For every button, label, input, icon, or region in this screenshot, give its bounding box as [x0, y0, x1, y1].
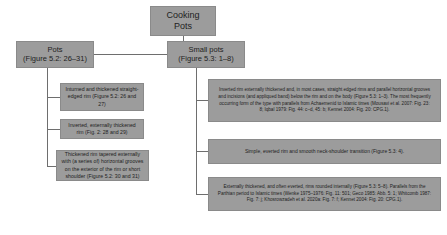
node-small-pots-child-3[interactable]: Externally thickened, and often everted,… [208, 177, 441, 211]
node-pots-child-3-label: Thickened rim tapered externally with (a… [57, 151, 148, 179]
node-pots-child-1[interactable]: Inturned and thickened straight-edged ri… [60, 83, 144, 111]
node-pots-child-3[interactable]: Thickened rim tapered externally with (a… [56, 150, 149, 181]
node-cooking-pots[interactable]: Cooking Pots [150, 6, 216, 36]
node-pots[interactable]: Pots (Figure 5.2: 26–31) [16, 41, 94, 68]
node-pots-child-1-label: Inturned and thickened straight-edged ri… [61, 86, 143, 107]
node-small-pots-label: Small pots (Figure 5.3: 1–8) [168, 46, 244, 64]
node-pots-child-2[interactable]: Inverted, externally thickened rim (Fig.… [60, 119, 144, 139]
node-small-pots-child-3-label: Externally thickened, and often everted,… [209, 184, 440, 204]
node-small-pots-child-2-label: Simple, everted rim and smooth neck-shou… [209, 148, 440, 155]
node-small-pots-child-1-label: Inverted rim externally thickened and, i… [209, 87, 440, 114]
node-pots-child-2-label: Inverted, externally thickened rim (Fig.… [61, 122, 143, 136]
node-small-pots-child-1[interactable]: Inverted rim externally thickened and, i… [208, 79, 441, 122]
node-cooking-pots-label: Cooking Pots [151, 10, 215, 31]
node-small-pots[interactable]: Small pots (Figure 5.3: 1–8) [167, 41, 245, 68]
node-pots-label: Pots (Figure 5.2: 26–31) [17, 46, 93, 64]
node-small-pots-child-2[interactable]: Simple, everted rim and smooth neck-shou… [208, 139, 441, 164]
